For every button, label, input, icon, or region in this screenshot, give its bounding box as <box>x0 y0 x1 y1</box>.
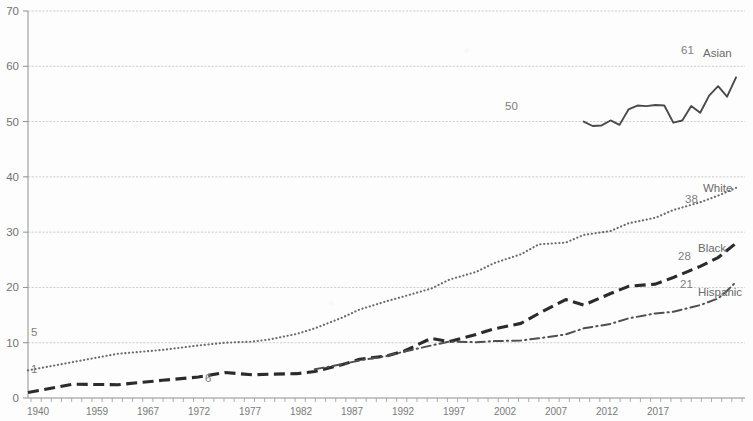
x-axis-tick-label: 1992 <box>392 406 415 417</box>
x-axis-tick-label: 1972 <box>188 406 211 417</box>
y-axis-labels-group: 010203040506070 <box>6 5 19 404</box>
x-axis-tick-label: 1959 <box>86 406 109 417</box>
x-axis-tick-label: 1940 <box>27 406 50 417</box>
y-axis-tick-label: 0 <box>13 392 19 404</box>
x-axis-tick-label: 2017 <box>647 406 670 417</box>
annotation-hispanic-end-value: 21 <box>680 278 693 290</box>
x-axis-labels-group: 1940195919671972197719821987199219972002… <box>27 406 670 417</box>
x-axis-tick-label: 1987 <box>341 406 364 417</box>
line-chart: 010203040506070 194019591967197219771982… <box>0 0 753 421</box>
y-axis-tick-label: 20 <box>6 281 19 293</box>
annotation-white-end-value: 38 <box>685 193 698 205</box>
annotation-black-end-value: 28 <box>678 250 691 262</box>
series-label-black: Black <box>698 242 726 254</box>
y-axis-tick-label: 50 <box>6 116 19 128</box>
series-label-white: White <box>703 182 732 194</box>
annotation-asian-end-value: 61 <box>681 44 694 56</box>
x-axis-group <box>28 11 745 398</box>
y-axis-tick-label: 70 <box>6 5 19 17</box>
annotation-black-start-value: 1 <box>31 363 37 375</box>
y-axis-ticks-group <box>23 11 28 398</box>
series-line-asian <box>584 77 736 126</box>
series-line-black <box>28 243 736 392</box>
x-axis-tick-label: 1977 <box>239 406 262 417</box>
gridlines-group <box>28 11 745 343</box>
x-axis-tick-label: 2002 <box>494 406 517 417</box>
x-axis-tick-label: 2012 <box>596 406 619 417</box>
annotation-asian-start-value: 50 <box>505 100 518 112</box>
y-axis-tick-label: 40 <box>6 171 19 183</box>
series-label-hispanic: Hispanic <box>698 286 742 298</box>
series-lines-group <box>28 77 736 392</box>
x-axis-tick-label: 1967 <box>137 406 160 417</box>
annotation-white-start-value: 5 <box>31 326 37 338</box>
series-label-asian: Asian <box>703 47 732 59</box>
series-name-labels-group: AsianWhiteBlackHispanic <box>698 47 742 298</box>
x-axis-ticks-group <box>31 398 742 402</box>
x-axis-tick-label: 1982 <box>290 406 313 417</box>
chart-container: 010203040506070 194019591967197219771982… <box>0 0 753 421</box>
y-axis-tick-label: 60 <box>6 60 19 72</box>
annotation-black-mid-value: 6 <box>205 372 211 384</box>
y-axis-tick-label: 30 <box>6 226 19 238</box>
y-axis-tick-label: 10 <box>6 337 19 349</box>
x-axis-tick-label: 1997 <box>443 406 466 417</box>
x-axis-tick-label: 2007 <box>545 406 568 417</box>
value-annotations-group: 5165061382821 <box>31 44 698 384</box>
